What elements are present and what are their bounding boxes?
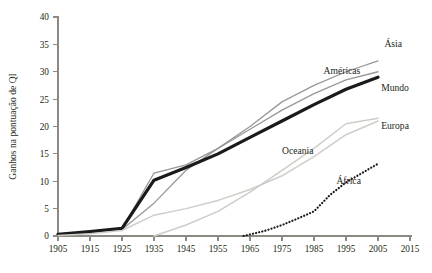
series-label-amricas: Américas: [324, 65, 361, 76]
y-tick-label: 30: [40, 67, 50, 77]
x-tick-label: 1925: [113, 244, 132, 254]
x-tick-label: 1995: [337, 244, 356, 254]
line-chart: 0510152025303540190519151925193519451955…: [0, 0, 432, 273]
x-tick-label: 1975: [273, 244, 292, 254]
series-label-mundo: Mundo: [381, 82, 409, 93]
x-tick-label: 1985: [305, 244, 324, 254]
y-axis-title: Ganhos na pontuação de QI: [7, 73, 18, 180]
x-tick-label: 1935: [145, 244, 164, 254]
x-tick-label: 1905: [49, 244, 68, 254]
y-tick-label: 15: [40, 149, 50, 159]
y-tick-label: 25: [40, 95, 50, 105]
x-tick-label: 1915: [81, 244, 100, 254]
x-tick-label: 2015: [401, 244, 420, 254]
y-tick-label: 40: [40, 12, 50, 22]
series-label-europa: Europa: [381, 120, 409, 131]
chart-container: 0510152025303540190519151925193519451955…: [0, 0, 432, 273]
y-tick-label: 0: [44, 231, 49, 241]
series-label-frica: África: [336, 175, 361, 186]
x-tick-label: 1945: [177, 244, 196, 254]
y-tick-label: 5: [44, 204, 49, 214]
y-tick-label: 35: [40, 40, 50, 50]
y-tick-label: 10: [40, 177, 50, 187]
series-line-europa: [58, 121, 378, 235]
x-tick-label: 1955: [209, 244, 228, 254]
x-tick-label: 2005: [369, 244, 388, 254]
series-label-oceania: Oceania: [282, 145, 314, 156]
x-tick-label: 1965: [241, 244, 260, 254]
series-label-sia: Ásia: [384, 38, 402, 49]
y-tick-label: 20: [40, 122, 50, 132]
